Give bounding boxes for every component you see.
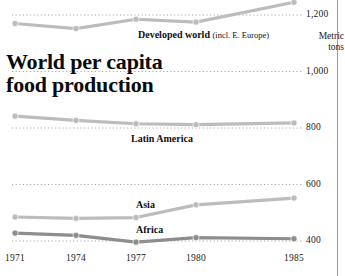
data-point-1-0 (12, 113, 18, 119)
series-label-africa: Africa (136, 224, 163, 235)
x-axis-label-1977: 1977 (126, 253, 146, 263)
data-point-2-3 (193, 202, 199, 208)
y-axis-label-1200: 1,200 (306, 9, 345, 19)
x-axis-label-1974: 1974 (66, 253, 86, 263)
data-point-0-3 (193, 19, 199, 25)
series-label-asia-text: Asia (136, 199, 155, 210)
data-point-2-1 (73, 215, 79, 221)
page-title: World per capita food production (6, 50, 163, 96)
data-point-3-4 (291, 236, 297, 242)
unit-caption: Metric tons (306, 31, 344, 52)
series-label-developed-world-note: (incl. E. Europe) (212, 30, 269, 40)
chart-container: 4006008001,0001,200 Metric tons 19711974… (0, 0, 345, 276)
series-label-africa-text: Africa (136, 224, 163, 235)
data-point-1-1 (73, 117, 79, 123)
series-label-latin-america: Latin America (131, 133, 193, 144)
series-label-latin-america-text: Latin America (131, 133, 193, 144)
data-point-2-4 (291, 195, 297, 201)
data-point-2-2 (133, 214, 139, 220)
data-point-0-1 (73, 25, 79, 31)
data-point-0-2 (133, 16, 139, 22)
data-point-3-1 (73, 232, 79, 238)
data-point-3-2 (133, 239, 139, 245)
series-line-0 (15, 2, 294, 28)
y-axis-label-800: 800 (306, 122, 345, 132)
series-line-1 (15, 116, 294, 124)
data-point-2-0 (12, 214, 18, 220)
data-point-3-3 (193, 235, 199, 241)
x-axis-label-1985: 1985 (284, 253, 304, 263)
y-axis-label-400: 400 (306, 235, 345, 245)
series-label-developed-world: Developed world (incl. E. Europe) (138, 29, 269, 40)
data-point-3-0 (12, 230, 18, 236)
y-axis-label-600: 600 (306, 179, 345, 189)
series-label-asia: Asia (136, 199, 155, 210)
data-point-1-2 (133, 121, 139, 127)
data-point-0-4 (291, 0, 297, 5)
x-axis-label-1980: 1980 (186, 253, 206, 263)
data-point-0-0 (12, 20, 18, 26)
x-axis-label-1971: 1971 (5, 253, 25, 263)
series-label-developed-world-text: Developed world (138, 29, 210, 40)
data-point-1-4 (291, 120, 297, 126)
y-axis-label-1000: 1,000 (306, 66, 345, 76)
data-point-1-3 (193, 122, 199, 128)
